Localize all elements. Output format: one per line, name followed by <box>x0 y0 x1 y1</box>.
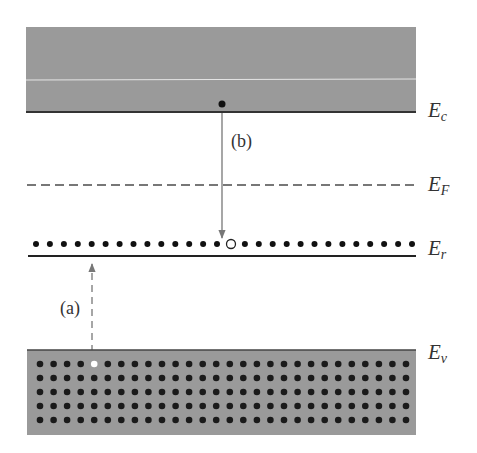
valence-electron <box>145 389 152 396</box>
trapped-electron <box>339 241 345 247</box>
valence-electron <box>77 389 84 396</box>
hole <box>91 361 98 368</box>
valence-electron <box>213 375 220 382</box>
valence-electron <box>403 361 410 368</box>
trapped-electron <box>89 241 95 247</box>
valence-electron <box>294 403 301 410</box>
valence-electron <box>267 403 274 410</box>
valence-electron <box>118 375 125 382</box>
valence-electron <box>267 417 274 424</box>
valence-electron <box>132 375 139 382</box>
valence-electron <box>227 361 234 368</box>
valence-electron <box>50 361 57 368</box>
trap-level <box>33 240 415 249</box>
trapped-electron <box>214 241 220 247</box>
energy-band-diagram: (b) (a) Ec EF Er Ev <box>0 0 477 453</box>
valence-electron <box>281 375 288 382</box>
valence-electron <box>199 389 206 396</box>
valence-electron <box>37 389 44 396</box>
valence-electron <box>118 417 125 424</box>
valence-electron <box>267 389 274 396</box>
valence-electron <box>376 389 383 396</box>
valence-electron <box>403 417 410 424</box>
valence-electron <box>50 403 57 410</box>
valence-electron <box>172 389 179 396</box>
valence-electron <box>37 417 44 424</box>
valence-electron <box>105 417 112 424</box>
transition-a: (a) <box>60 264 92 364</box>
label-ef: EF <box>427 172 450 198</box>
label-er: Er <box>427 236 447 262</box>
valence-electron <box>254 403 261 410</box>
valence-electron <box>389 417 396 424</box>
valence-electron <box>240 361 247 368</box>
trapped-electron <box>61 241 67 247</box>
valence-electron <box>294 375 301 382</box>
empty-trap-state <box>227 240 236 249</box>
valence-electron <box>349 389 356 396</box>
valence-electron <box>77 361 84 368</box>
valence-electron <box>267 361 274 368</box>
valence-electron <box>199 361 206 368</box>
valence-electron <box>37 361 44 368</box>
valence-electron <box>376 403 383 410</box>
trapped-electron <box>325 241 331 247</box>
trapped-electron <box>158 241 164 247</box>
valence-electron <box>50 389 57 396</box>
valence-electron <box>91 403 98 410</box>
trapped-electron <box>186 241 192 247</box>
valence-electron <box>159 389 166 396</box>
valence-electron <box>240 417 247 424</box>
trapped-electron <box>33 241 39 247</box>
valence-electron <box>335 361 342 368</box>
valence-electron <box>308 403 315 410</box>
trapped-electron <box>242 241 248 247</box>
level-labels: Ec EF Er Ev <box>427 98 450 366</box>
valence-electron <box>159 361 166 368</box>
valence-electron <box>321 403 328 410</box>
valence-electron <box>321 375 328 382</box>
valence-electron <box>362 417 369 424</box>
valence-electron <box>37 375 44 382</box>
valence-electron <box>132 403 139 410</box>
valence-electron <box>91 375 98 382</box>
valence-electron <box>376 375 383 382</box>
valence-electron <box>240 389 247 396</box>
valence-electron <box>50 417 57 424</box>
conduction-band-fill <box>26 27 416 112</box>
valence-electron <box>64 375 71 382</box>
valence-electron <box>186 389 193 396</box>
valence-electron <box>118 389 125 396</box>
valence-electron <box>254 375 261 382</box>
valence-electron <box>389 375 396 382</box>
valence-electron <box>118 403 125 410</box>
valence-electron <box>64 417 71 424</box>
valence-electron <box>172 361 179 368</box>
valence-electron <box>145 375 152 382</box>
valence-electron <box>199 403 206 410</box>
valence-electron <box>213 403 220 410</box>
valence-electron <box>254 417 261 424</box>
valence-electron <box>349 361 356 368</box>
valence-electron <box>77 417 84 424</box>
valence-electron <box>145 361 152 368</box>
trapped-electron <box>200 241 206 247</box>
valence-electron <box>349 417 356 424</box>
valence-electron <box>376 361 383 368</box>
trapped-electron <box>395 241 401 247</box>
valence-electron <box>403 389 410 396</box>
valence-electron <box>172 417 179 424</box>
valence-electron <box>132 361 139 368</box>
valence-electron <box>64 361 71 368</box>
valence-electron <box>227 417 234 424</box>
trapped-electron <box>353 241 359 247</box>
valence-electron <box>362 403 369 410</box>
valence-electron <box>389 403 396 410</box>
valence-electron <box>77 375 84 382</box>
valence-electron <box>172 375 179 382</box>
trapped-electron <box>47 241 53 247</box>
valence-electron <box>186 403 193 410</box>
trapped-electron <box>312 241 318 247</box>
valence-electron <box>240 403 247 410</box>
valence-electron <box>159 403 166 410</box>
